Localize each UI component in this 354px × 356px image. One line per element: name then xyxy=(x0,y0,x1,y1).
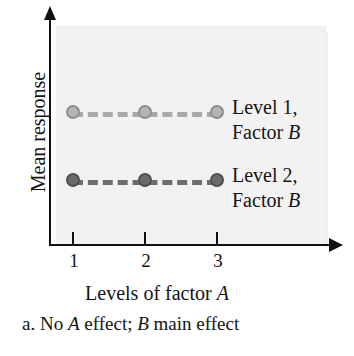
x-tick-label-3: 3 xyxy=(203,249,233,273)
x-tick-mark-1 xyxy=(72,232,74,245)
legend-series-1-factor-text: Factor xyxy=(232,121,288,143)
x-axis-line xyxy=(49,244,331,246)
caption-part-1: a. No xyxy=(22,313,68,334)
legend-series-1-line1: Level 1, xyxy=(232,96,298,118)
y-axis-label: Mean response xyxy=(26,32,50,232)
caption-part-3: main effect xyxy=(149,313,239,334)
x-axis-label-text: Levels of factor xyxy=(85,282,217,304)
legend-series-1-factor-symbol: B xyxy=(288,121,300,143)
y-axis-arrowhead-icon xyxy=(44,6,56,20)
legend-series-2-line1: Level 2, xyxy=(232,164,298,186)
x-axis-label: Levels of factor A xyxy=(42,281,272,305)
x-tick-mark-2 xyxy=(144,232,146,245)
x-axis-label-symbol: A xyxy=(217,282,229,304)
x-tick-label-2: 2 xyxy=(131,249,161,273)
legend-series-1-line2: Factor B xyxy=(232,120,300,145)
x-axis-arrowhead-icon xyxy=(329,238,343,252)
interaction-plot-figure: 1 2 3 Level 1, Factor B Level 2, Factor … xyxy=(0,0,354,356)
series-2-point-2 xyxy=(138,173,152,187)
caption-symbol-b: B xyxy=(137,313,149,334)
series-2-point-1 xyxy=(66,173,80,187)
legend-series-2: Level 2, Factor B xyxy=(232,163,300,213)
caption-part-2: effect; xyxy=(80,313,138,334)
series-1-point-2 xyxy=(138,105,152,119)
legend-series-2-factor-symbol: B xyxy=(288,189,300,211)
figure-caption: a. No A effect; B main effect xyxy=(22,312,239,336)
series-1-point-3 xyxy=(210,105,224,119)
legend-series-2-line2: Factor B xyxy=(232,188,300,213)
legend-series-1: Level 1, Factor B xyxy=(232,95,300,145)
x-tick-mark-3 xyxy=(216,232,218,245)
caption-symbol-a: A xyxy=(68,313,80,334)
series-1-point-1 xyxy=(66,105,80,119)
legend-series-2-factor-text: Factor xyxy=(232,189,288,211)
x-tick-label-1: 1 xyxy=(59,249,89,273)
series-2-point-3 xyxy=(210,173,224,187)
